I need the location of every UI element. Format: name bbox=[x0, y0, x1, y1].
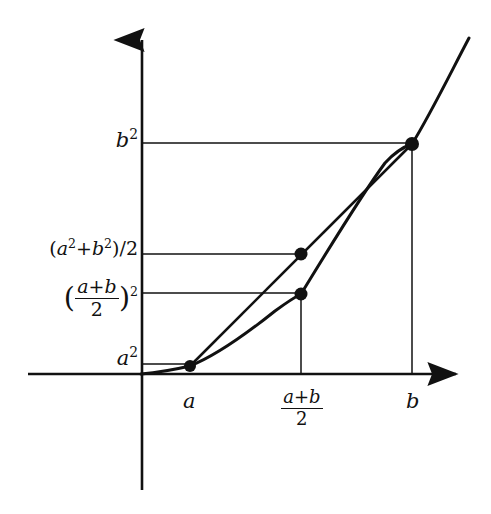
y-label-avg-divider: /2 bbox=[120, 237, 139, 259]
y-label-sqavg-fraction: a+b2 bbox=[75, 277, 119, 320]
x-label-midpoint-denominator: 2 bbox=[281, 409, 323, 429]
figure-root: b2 (a2+b2)/2 (a+b2)2 a2 a a+b2 b bbox=[0, 0, 491, 514]
point-midpoint-on-curve bbox=[295, 288, 308, 301]
y-label-avg-first-base: a bbox=[57, 237, 68, 259]
y-label-b-squared-base: b bbox=[116, 128, 129, 152]
y-label-avg-second-base: b bbox=[92, 237, 104, 259]
y-label-b-squared-exponent: 2 bbox=[129, 126, 138, 142]
x-label-midpoint: a+b2 bbox=[281, 388, 323, 429]
x-label-midpoint-num-plus: + bbox=[294, 386, 309, 407]
y-label-avg-close-paren: ) bbox=[112, 237, 119, 259]
axes-group bbox=[28, 40, 456, 490]
horizontal-guide-lines bbox=[141, 143, 412, 364]
y-label-avg-first-exponent: 2 bbox=[68, 236, 76, 251]
point-a-on-curve bbox=[184, 360, 196, 372]
y-label-sqavg-num-first: a bbox=[77, 275, 88, 297]
y-label-a-squared: a2 bbox=[117, 348, 138, 369]
y-label-a-squared-exponent: 2 bbox=[129, 344, 138, 360]
y-label-avg-second-exponent: 2 bbox=[104, 236, 112, 251]
y-label-avg-of-squares: (a2+b2)/2 bbox=[49, 239, 138, 258]
x-label-a: a bbox=[183, 391, 196, 412]
point-b-on-curve bbox=[405, 137, 419, 151]
y-label-avg-open-paren: ( bbox=[49, 237, 56, 259]
y-label-sqavg-close-paren: ) bbox=[119, 285, 130, 311]
y-label-b-squared: b2 bbox=[116, 130, 138, 151]
y-label-square-of-avg: (a+b2)2 bbox=[64, 277, 138, 320]
x-label-b: b bbox=[406, 391, 419, 412]
y-label-sqavg-numerator: a+b bbox=[75, 277, 119, 299]
x-label-midpoint-num-second: b bbox=[309, 386, 321, 407]
y-label-sqavg-exponent: 2 bbox=[130, 284, 138, 299]
x-label-midpoint-num-first: a bbox=[283, 386, 294, 407]
x-label-midpoint-fraction: a+b2 bbox=[281, 388, 323, 429]
y-label-sqavg-denominator: 2 bbox=[75, 299, 119, 320]
y-label-sqavg-num-second: b bbox=[104, 275, 116, 297]
point-midpoint-on-chord bbox=[295, 248, 308, 261]
y-label-sqavg-open-paren: ( bbox=[64, 285, 75, 311]
vertical-guide-lines bbox=[301, 144, 412, 375]
parabola-curve bbox=[141, 38, 469, 374]
y-label-sqavg-num-plus: + bbox=[89, 275, 105, 297]
y-label-a-squared-base: a bbox=[117, 346, 130, 370]
x-label-midpoint-numerator: a+b bbox=[281, 388, 323, 409]
y-label-avg-plus: + bbox=[76, 237, 92, 259]
